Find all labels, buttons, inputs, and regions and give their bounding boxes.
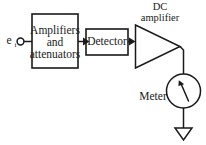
amplifiers-label-line2: and <box>47 36 64 48</box>
dc-amplifier-group: DC amplifier <box>136 1 181 68</box>
arrowhead-into-dcamp <box>129 38 136 46</box>
input-signal-label: e <box>6 34 11 46</box>
amplifiers-block-group: Amplifiers and attenuators <box>30 14 81 68</box>
input-signal-subscript: i <box>15 41 17 49</box>
meter-needle <box>181 83 189 102</box>
amplifiers-label-line3: attenuators <box>30 48 81 60</box>
ground-symbol-triangle <box>175 128 192 140</box>
wire-dcamp-to-meter-group <box>180 47 184 75</box>
wire-meter-to-ground-group <box>175 108 192 140</box>
wire-detector-to-dcamp-group <box>128 38 136 46</box>
dc-amplifier-triangle <box>136 25 181 68</box>
dc-amplifier-label-line1: DC <box>153 1 168 12</box>
input-terminal-group: e i <box>6 34 32 49</box>
input-terminal-circle <box>17 38 24 45</box>
block-diagram-canvas: e i Amplifiers and attenuators Detector <box>0 0 206 145</box>
detector-block-group: Detector <box>86 29 128 55</box>
meter-group: Meter <box>139 74 200 108</box>
detector-label: Detector <box>87 35 127 47</box>
dc-amplifier-label-line2: amplifier <box>141 12 180 23</box>
wire-dcamp-to-meter <box>180 47 184 75</box>
block-diagram-svg: e i Amplifiers and attenuators Detector <box>0 0 206 145</box>
meter-label: Meter <box>139 90 167 102</box>
